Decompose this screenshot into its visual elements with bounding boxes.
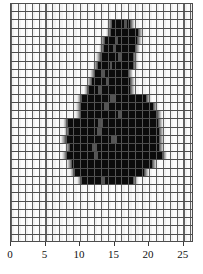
row-cell-shading xyxy=(11,12,192,19)
row-grid-lines xyxy=(11,202,192,209)
bar-right-feather xyxy=(157,111,162,118)
bar-left-feather xyxy=(64,128,69,135)
bar-left-feather xyxy=(61,136,66,143)
chart-row xyxy=(10,3,193,11)
bar-left-feather xyxy=(77,95,82,102)
chart-row xyxy=(10,159,193,167)
interval-bar xyxy=(92,78,130,85)
chart-row xyxy=(10,102,193,110)
x-axis-tick xyxy=(183,242,184,246)
chart-row xyxy=(10,217,193,225)
row-grid-lines xyxy=(11,235,192,241)
bar-right-feather xyxy=(137,37,142,44)
bar-left-feather xyxy=(87,78,92,85)
bar-right-feather xyxy=(153,103,158,110)
x-axis-tick xyxy=(79,242,80,246)
chart-row xyxy=(10,52,193,60)
interval-bar xyxy=(81,111,157,118)
chart-row xyxy=(10,201,193,209)
chart-row xyxy=(10,192,193,200)
bar-right-feather xyxy=(146,95,151,102)
interval-bar xyxy=(72,160,152,167)
bar-left-feather xyxy=(77,177,82,184)
chart-row xyxy=(10,28,193,36)
row-cell-shading xyxy=(11,210,192,217)
chart-row xyxy=(10,151,193,159)
chart-plot-area xyxy=(10,3,193,242)
x-axis-tick-label: 15 xyxy=(108,248,119,260)
row-grid-lines xyxy=(11,20,192,27)
interval-bar xyxy=(82,177,132,184)
bar-left-feather xyxy=(107,20,112,27)
bar-highlight-cell xyxy=(124,20,127,27)
bar-right-feather xyxy=(159,128,164,135)
row-cell-shading xyxy=(11,20,192,27)
bar-left-feather xyxy=(76,111,81,118)
interval-bar xyxy=(101,53,133,60)
bar-right-feather xyxy=(144,169,149,176)
bar-highlight-cell xyxy=(98,86,101,93)
bar-highlight-cell xyxy=(104,103,110,110)
interval-bar xyxy=(112,20,130,27)
bar-right-feather xyxy=(130,20,135,27)
bar-right-feather xyxy=(159,144,164,151)
x-axis-tick-label: 0 xyxy=(7,248,13,260)
interval-bar xyxy=(81,103,153,110)
bar-right-feather xyxy=(159,136,164,143)
bar-highlight-cell xyxy=(98,119,103,126)
x-axis-tick xyxy=(10,242,11,246)
bar-right-feather xyxy=(133,53,138,60)
x-axis-tick-label: 20 xyxy=(143,248,154,260)
bar-left-feather xyxy=(90,70,95,77)
row-cell-shading xyxy=(11,235,192,241)
row-grid-lines xyxy=(11,185,192,192)
bar-right-feather xyxy=(133,177,138,184)
chart-row xyxy=(10,127,193,135)
bar-left-feather xyxy=(67,160,72,167)
bar-right-feather xyxy=(130,78,135,85)
bar-right-feather xyxy=(152,160,157,167)
row-grid-lines xyxy=(11,193,192,200)
figure: 0510152025 xyxy=(0,0,203,274)
chart-row xyxy=(10,44,193,52)
figure-caption xyxy=(0,264,203,274)
bar-left-feather xyxy=(76,103,81,110)
row-grid-lines xyxy=(11,29,192,36)
row-cell-shading xyxy=(11,29,192,36)
chart-row xyxy=(10,69,193,77)
x-axis-tick-label: 25 xyxy=(177,248,188,260)
chart-row xyxy=(10,184,193,192)
bar-left-feather xyxy=(106,29,111,36)
row-grid-lines xyxy=(11,210,192,217)
bar-right-feather xyxy=(135,45,140,52)
interval-bar xyxy=(66,136,159,143)
chart-row xyxy=(10,176,193,184)
bar-right-feather xyxy=(138,29,143,36)
bar-left-feather xyxy=(63,119,68,126)
chart-row xyxy=(10,11,193,19)
row-grid-lines xyxy=(11,4,192,11)
chart-row xyxy=(10,110,193,118)
bar-left-feather xyxy=(100,37,105,44)
chart-row xyxy=(10,168,193,176)
interval-bar xyxy=(111,29,138,36)
bar-highlight-cell xyxy=(102,70,105,77)
chart-row xyxy=(10,77,193,85)
chart-row xyxy=(10,61,193,69)
interval-bar xyxy=(69,128,159,135)
bar-right-feather xyxy=(130,86,135,93)
bar-highlight-cell xyxy=(111,136,117,143)
bar-right-feather xyxy=(133,62,138,69)
chart-row xyxy=(10,94,193,102)
bar-highlight-cell xyxy=(115,37,118,44)
row-cell-shading xyxy=(11,185,192,192)
chart-row xyxy=(10,143,193,151)
interval-bar xyxy=(82,95,146,102)
bar-right-feather xyxy=(158,119,163,126)
row-cell-shading xyxy=(11,218,192,225)
bar-highlight-cell xyxy=(92,144,96,151)
bar-left-feather xyxy=(99,45,104,52)
interval-bar xyxy=(104,45,135,52)
bar-highlight-cell xyxy=(110,62,113,69)
x-axis-tick-label: 5 xyxy=(42,248,48,260)
